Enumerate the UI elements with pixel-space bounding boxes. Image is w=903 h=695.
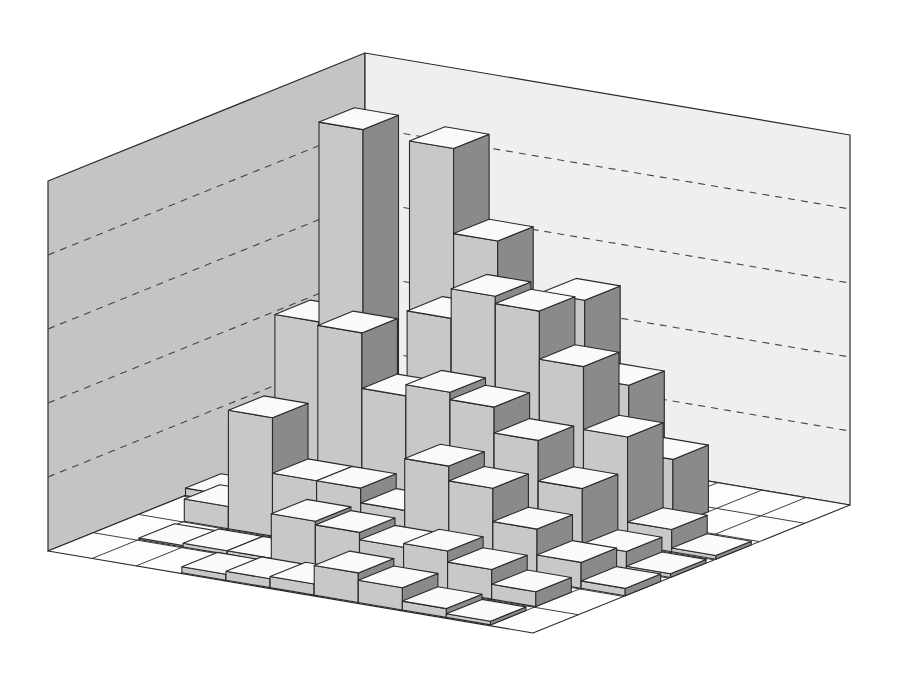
- bar-front-face: [228, 410, 272, 536]
- bar3d-chart: [0, 0, 903, 695]
- bar3d-plot-area: [0, 0, 903, 695]
